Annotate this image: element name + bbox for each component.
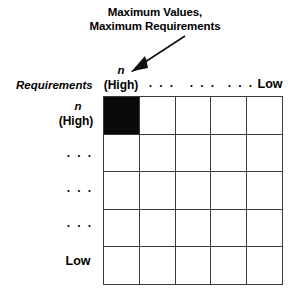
callout-title-line-1: Maximum Values,: [40, 5, 270, 19]
matrix-grid: [103, 96, 283, 285]
matrix-cell: [176, 172, 212, 210]
matrix-cell: [247, 135, 283, 173]
matrix-cell: [140, 210, 176, 248]
row-head-value: (High): [52, 114, 100, 128]
matrix-cell: [104, 210, 140, 248]
matrix-cell: [211, 210, 247, 248]
matrix-cell: [140, 247, 176, 285]
callout-title: Maximum Values, Maximum Requirements: [40, 5, 270, 33]
column-ellipsis-1: · · ·: [144, 80, 180, 92]
matrix-cell: [247, 97, 283, 135]
row-ellipsis-3: · · ·: [60, 220, 100, 232]
matrix-cell: [104, 172, 140, 210]
matrix-cell: [140, 172, 176, 210]
column-ellipsis-2: · · ·: [185, 80, 221, 92]
matrix-cell: [247, 172, 283, 210]
column-head-symbol: n: [103, 64, 139, 76]
matrix-cell: [140, 97, 176, 135]
matrix-cell: [176, 210, 212, 248]
matrix-cell: [104, 135, 140, 173]
matrix-cell: [140, 135, 176, 173]
matrix-cell: [176, 135, 212, 173]
matrix-cell: [211, 97, 247, 135]
column-tail-value: Low: [250, 77, 290, 91]
matrix-cell: [211, 172, 247, 210]
matrix-cell: [211, 247, 247, 285]
matrix-cell: [247, 247, 283, 285]
requirements-values-matrix-figure: Maximum Values, Maximum Requirements Req…: [0, 0, 303, 299]
callout-title-line-2: Maximum Requirements: [40, 19, 270, 33]
column-head-value: (High): [100, 78, 142, 92]
row-head-symbol: n: [56, 100, 100, 112]
row-tail-value: Low: [56, 254, 100, 268]
matrix-cell: [247, 210, 283, 248]
matrix-cell: [104, 247, 140, 285]
column-axis-label: Requirements: [16, 79, 93, 91]
matrix-cell: [176, 97, 212, 135]
row-ellipsis-1: · · ·: [60, 150, 100, 162]
row-ellipsis-2: · · ·: [60, 185, 100, 197]
matrix-cell: [211, 135, 247, 173]
matrix-cell: [104, 97, 140, 135]
matrix-cell: [176, 247, 212, 285]
